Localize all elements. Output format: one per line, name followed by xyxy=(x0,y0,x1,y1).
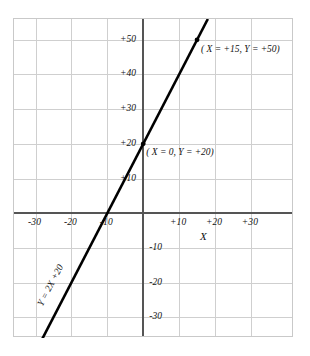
plot-area xyxy=(13,18,293,337)
x-tick-label: -10 xyxy=(100,217,113,227)
y-tick-label: +50 xyxy=(120,34,136,44)
x-tick-label: -20 xyxy=(64,217,77,227)
x-tick-label: +20 xyxy=(206,217,222,227)
data-point-marker xyxy=(195,37,200,42)
y-tick-label: +10 xyxy=(120,173,136,183)
y-tick-label: +40 xyxy=(120,68,136,78)
point-label-intercept: ( X = 0, Y = +20) xyxy=(146,147,214,157)
data-series-layer xyxy=(14,19,294,338)
chart-figure: -30-20-10+10+20+30+40+50-30-20-10+10+20+… xyxy=(0,0,310,356)
point-label-upper: ( X = +15, Y = +50) xyxy=(201,44,280,54)
x-tick-label: +10 xyxy=(170,217,186,227)
x-tick-label: +30 xyxy=(242,217,258,227)
y-tick-label: +30 xyxy=(120,103,136,113)
data-point-marker xyxy=(141,141,146,146)
y-tick-label: +20 xyxy=(120,138,136,148)
x-axis-title: X xyxy=(200,230,207,242)
x-tick-label: -30 xyxy=(28,217,41,227)
y-tick-label: -30 xyxy=(149,311,162,321)
y-tick-label: -20 xyxy=(149,277,162,287)
y-tick-label: -10 xyxy=(149,242,162,252)
